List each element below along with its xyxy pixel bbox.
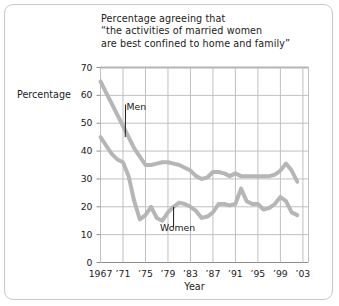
y-tick-label: 10 [67, 229, 93, 240]
x-tick-label: ’83 [182, 268, 198, 279]
series-label-women: Women [160, 222, 195, 233]
y-tick-label: 60 [67, 89, 93, 100]
x-tick-label: ’79 [160, 268, 176, 279]
y-tick-label: 20 [67, 201, 93, 212]
x-tick-label: ’03 [295, 268, 311, 279]
chart-figure: Percentage agreeing that “the activities… [0, 0, 339, 306]
y-tick-label: 30 [67, 173, 93, 184]
series-label-men: Men [127, 101, 147, 112]
x-tick-label: ’71 [115, 268, 131, 279]
y-tick-label: 40 [67, 145, 93, 156]
y-tick-label: 70 [67, 62, 93, 73]
x-tick-label: ’99 [272, 268, 288, 279]
x-tick-label: 1967 [88, 268, 114, 279]
x-tick-label: ’91 [227, 268, 243, 279]
y-tick-label: 0 [67, 257, 93, 268]
x-tick-label: ’87 [205, 268, 221, 279]
y-tick-label: 50 [67, 117, 93, 128]
series-line-men [101, 81, 298, 181]
x-tick-label: ’95 [250, 268, 266, 279]
x-tick-label: ’75 [137, 268, 153, 279]
plot-area [0, 0, 339, 306]
